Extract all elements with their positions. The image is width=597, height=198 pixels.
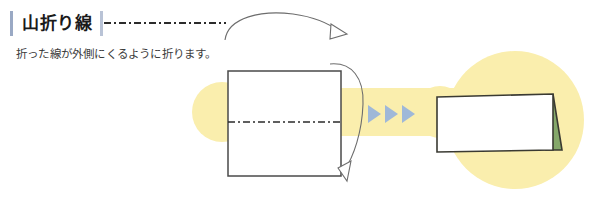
mountain-fold-instruction-panel: 山折り線 折った線が外側にくるように折ります。 bbox=[0, 0, 597, 198]
folded-tent-card bbox=[437, 94, 562, 152]
fold-diagram bbox=[0, 0, 597, 198]
lead-in-arrow-icon bbox=[225, 13, 347, 40]
flat-square-sheet bbox=[228, 71, 341, 176]
